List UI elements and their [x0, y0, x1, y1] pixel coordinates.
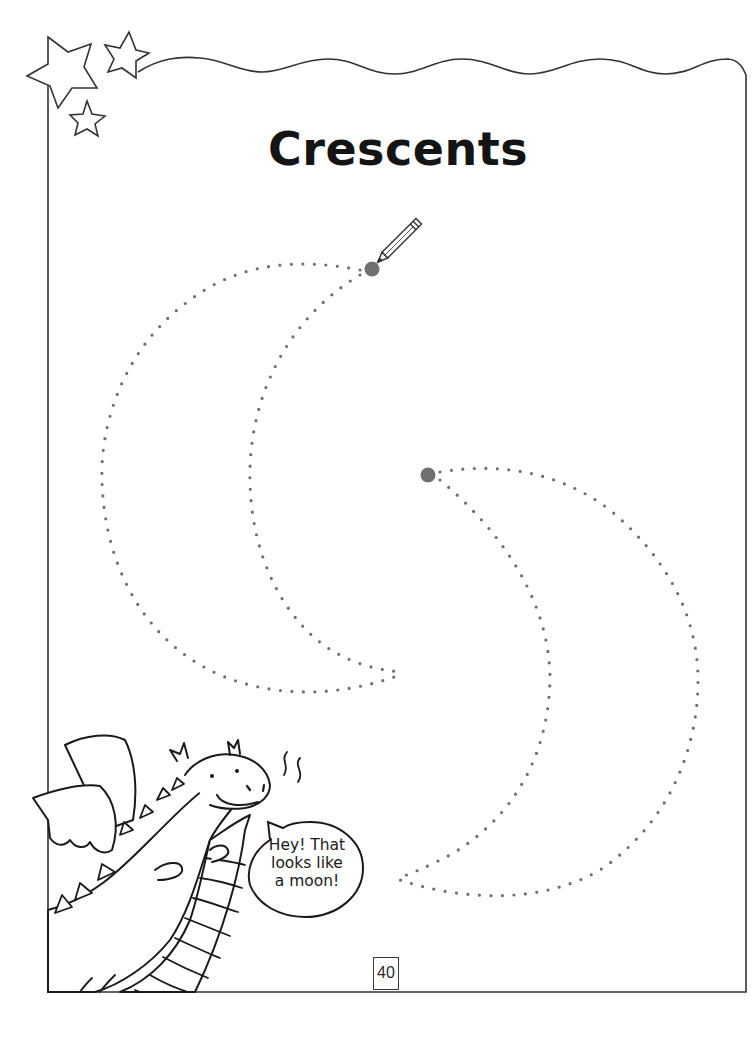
- page-title: Crescents: [0, 122, 756, 176]
- speech-line: Hey! That: [248, 836, 366, 854]
- speech-bubble-text: Hey! That looks like a moon!: [248, 836, 366, 890]
- speech-line: looks like: [248, 854, 366, 872]
- tracing-crescent-left[interactable]: [102, 264, 400, 692]
- tracing-crescent-right[interactable]: [398, 468, 698, 895]
- pencil-icon: [375, 218, 422, 265]
- speech-line: a moon!: [248, 872, 366, 890]
- page-number: 40: [373, 957, 399, 990]
- start-dot-crescent-left[interactable]: [365, 262, 380, 277]
- stars-decoration: [27, 32, 149, 136]
- worksheet-page: Crescents Hey! That looks like a moon! 4…: [0, 0, 756, 1055]
- star-icon: [27, 37, 97, 108]
- star-icon: [105, 32, 149, 78]
- start-dot-crescent-right[interactable]: [421, 468, 436, 483]
